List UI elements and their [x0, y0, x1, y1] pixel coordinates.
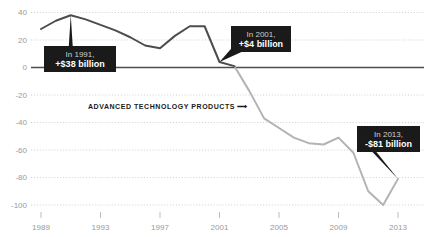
callout-2001: In 2001,+$4 billion	[220, 26, 292, 62]
x-tick-label-1993: 1993	[92, 223, 110, 232]
y-tick-label--80: -80	[15, 173, 27, 182]
y-tick-label-20: 20	[18, 36, 27, 45]
callout-1991-line2: +$38 billion	[55, 59, 104, 69]
y-tick-label--60: -60	[15, 146, 27, 155]
callout-1991-pointer	[69, 15, 73, 50]
x-tick-label-1989: 1989	[32, 223, 50, 232]
annotations-group: In 1991,+$38 billionIn 2001,+$4 billionI…	[44, 15, 420, 179]
series-inline-label: ADVANCED TECHNOLOGY PRODUCTS ⟶	[88, 103, 248, 110]
callout-2013: In 2013,-$81 billion	[357, 126, 420, 179]
x-tick-label-2013: 2013	[389, 223, 407, 232]
data-series-line	[41, 15, 398, 205]
x-tick-label-2009: 2009	[330, 223, 348, 232]
y-tick-label--100: -100	[11, 201, 28, 210]
callout-2013-line1: In 2013,	[374, 130, 403, 139]
advanced-technology-products-chart: 40200-20-40-60-80-100 198919931997200120…	[0, 0, 430, 237]
x-tick-label-1997: 1997	[151, 223, 169, 232]
y-tick-label-40: 40	[18, 8, 27, 17]
y-tick-label--20: -20	[15, 91, 27, 100]
chart-canvas: 40200-20-40-60-80-100 198919931997200120…	[0, 0, 430, 237]
x-axis-tick-labels: 1989199319972001200520092013	[32, 223, 407, 232]
callout-1991: In 1991,+$38 billion	[44, 15, 116, 72]
x-tick-label-2005: 2005	[270, 223, 288, 232]
series-label-text: ADVANCED TECHNOLOGY PRODUCTS ⟶	[88, 103, 248, 110]
x-tick-label-2001: 2001	[211, 223, 229, 232]
y-axis-tick-labels: 40200-20-40-60-80-100	[11, 8, 28, 210]
y-tick-label--40: -40	[15, 118, 27, 127]
callout-2013-line2: -$81 billion	[365, 139, 412, 149]
callout-2001-line2: +$4 billion	[239, 39, 283, 49]
callout-2001-line1: In 2001,	[247, 30, 276, 39]
y-tick-label-0: 0	[23, 63, 28, 72]
callout-1991-line1: In 1991,	[66, 50, 95, 59]
x-axis-tick-marks	[41, 212, 398, 218]
